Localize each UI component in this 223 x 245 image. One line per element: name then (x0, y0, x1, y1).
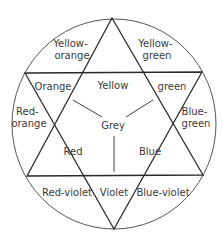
divider-yellow-red (73, 100, 102, 117)
label-yellow-green: Yellow- green (137, 38, 176, 61)
label-blue-green: Blue- green (182, 106, 211, 129)
label-yellow: Yellow (97, 80, 129, 91)
secondary-triangle (25, 72, 202, 229)
label-yellow-orange: Yellow- orange (52, 38, 91, 61)
label-green: green (158, 81, 187, 92)
label-violet: Violet (100, 187, 128, 198)
label-blue-violet: Blue-violet (136, 187, 189, 198)
label-red-orange: Red- orange (11, 106, 46, 129)
divider-yellow-blue (126, 100, 153, 117)
label-grey: Grey (101, 120, 125, 131)
color-wheel-diagram: Yellow- orange Yellow- green Orange Yell… (0, 0, 223, 245)
label-orange: Orange (35, 81, 72, 92)
label-red: Red (64, 146, 83, 157)
label-blue: Blue (139, 146, 161, 157)
label-red-violet: Red-violet (42, 187, 92, 198)
